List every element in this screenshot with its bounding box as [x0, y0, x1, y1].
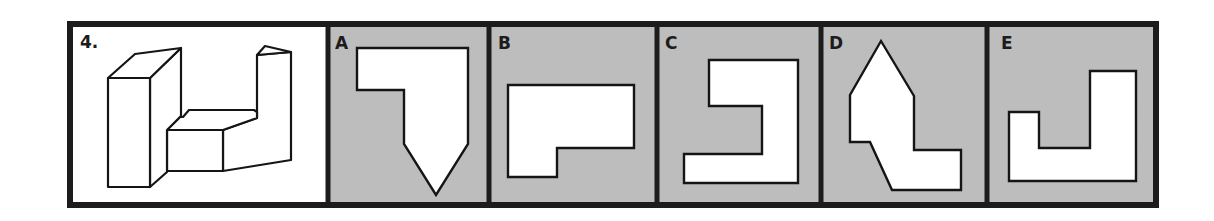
option-label: E	[1001, 33, 1013, 53]
middle-block-front	[167, 130, 223, 171]
option-label: D	[829, 33, 843, 53]
question-panel: 4.	[73, 27, 327, 202]
left-box-front	[108, 78, 150, 187]
question-number: 4.	[80, 32, 98, 52]
option-label: B	[498, 33, 511, 53]
puzzle-strip: 4. A B C	[0, 0, 1214, 221]
option-label: A	[335, 33, 349, 53]
option-label: C	[665, 33, 677, 53]
